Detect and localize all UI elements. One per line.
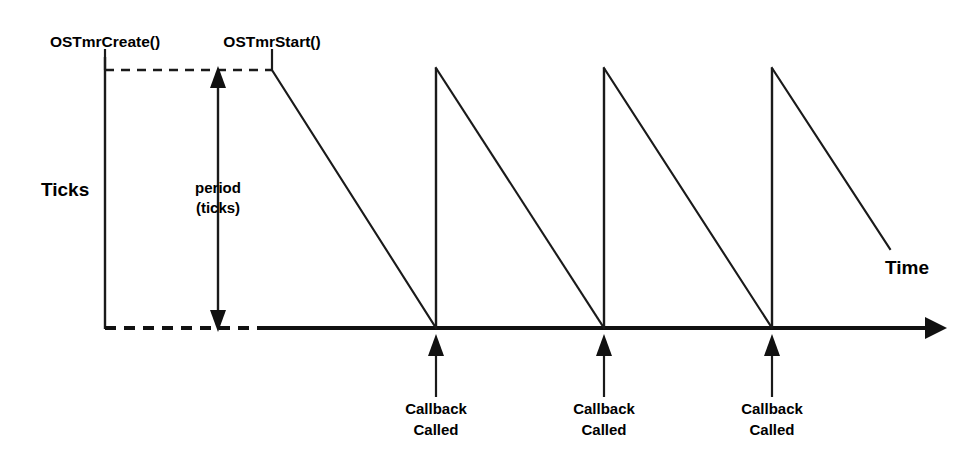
callback-label-1-line2: Called: [413, 421, 458, 438]
callback-label-2-line2: Called: [581, 421, 626, 438]
y-axis-label: Ticks: [41, 179, 89, 200]
ostmrcreate-label: OSTmrCreate(): [50, 33, 160, 50]
period-label-line2: (ticks): [196, 199, 240, 216]
ostmrstart-label: OSTmrStart(): [223, 33, 320, 50]
timer-diagram-canvas: OSTmrCreate() OSTmrStart() Ticks Time pe…: [0, 0, 973, 462]
callback-arrowhead-icon-2: [596, 334, 612, 356]
timing-diagram: OSTmrCreate() OSTmrStart() Ticks Time pe…: [0, 0, 973, 462]
countdown-ramp-4: [772, 68, 890, 249]
callback-arrowhead-icon-3: [764, 334, 780, 356]
period-label-line1: period: [195, 179, 241, 196]
x-axis-arrowhead-icon: [925, 317, 947, 339]
countdown-ramp-3: [604, 68, 772, 328]
callback-label-2-line1: Callback: [573, 400, 635, 417]
callback-arrowhead-icon-1: [428, 334, 444, 356]
callback-label-1-line1: Callback: [405, 400, 467, 417]
callback-label-3-line2: Called: [749, 421, 794, 438]
countdown-ramp-2: [436, 68, 604, 328]
countdown-ramp-1: [272, 70, 436, 328]
x-axis-label: Time: [885, 257, 929, 278]
callback-label-3-line1: Callback: [741, 400, 803, 417]
